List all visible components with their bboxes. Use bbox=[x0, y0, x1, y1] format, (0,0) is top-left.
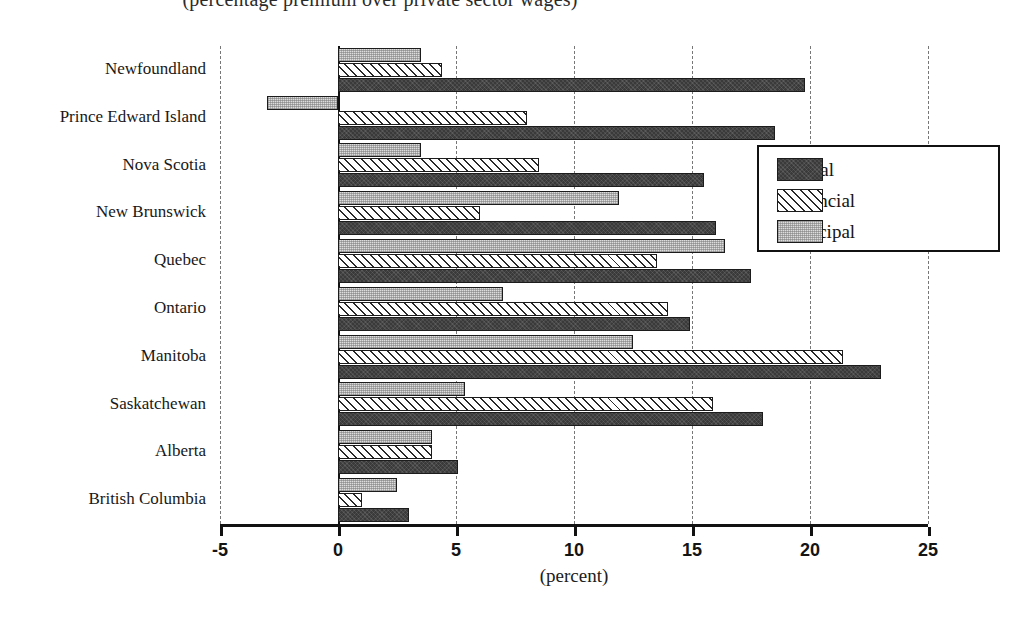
bar-municipal bbox=[338, 48, 421, 62]
bar-federal bbox=[338, 221, 716, 235]
x-tick bbox=[338, 527, 341, 536]
x-tick-label: 15 bbox=[682, 540, 702, 561]
x-tick-label: 25 bbox=[918, 540, 938, 561]
y-tick-label: Saskatchewan bbox=[110, 394, 206, 414]
bar-group bbox=[220, 476, 928, 524]
chart-subtitle: (percentage premium over private sector … bbox=[0, 0, 760, 11]
bar-municipal bbox=[338, 335, 633, 349]
bar-municipal bbox=[338, 478, 397, 492]
dark-solid-swatch bbox=[777, 158, 823, 181]
bar-provincial bbox=[338, 493, 362, 507]
y-tick-label: British Columbia bbox=[88, 489, 206, 509]
legend-item-federal: Federal bbox=[777, 154, 998, 185]
bar-provincial bbox=[338, 111, 527, 125]
y-tick-label: Nova Scotia bbox=[122, 155, 206, 175]
x-tick-label: 5 bbox=[451, 540, 461, 561]
x-tick bbox=[928, 527, 931, 536]
bar-municipal bbox=[338, 287, 503, 301]
bar-group bbox=[220, 94, 928, 142]
bar-group bbox=[220, 428, 928, 476]
x-tick bbox=[810, 527, 813, 536]
x-axis-title: (percent) bbox=[220, 565, 928, 587]
bar-municipal bbox=[338, 143, 421, 157]
x-tick bbox=[574, 527, 577, 536]
bar-group bbox=[220, 333, 928, 381]
x-axis-line: -50510152025 bbox=[220, 524, 928, 527]
bar-provincial bbox=[338, 445, 432, 459]
x-tick bbox=[692, 527, 695, 536]
bar-provincial bbox=[338, 397, 713, 411]
bar-municipal bbox=[338, 382, 465, 396]
bar-federal bbox=[338, 126, 775, 140]
y-tick-label: New Brunswick bbox=[96, 202, 206, 222]
bar-municipal bbox=[267, 96, 338, 110]
bar-provincial bbox=[338, 254, 657, 268]
bar-municipal bbox=[338, 430, 432, 444]
bar-federal bbox=[338, 508, 409, 522]
bar-group bbox=[220, 381, 928, 429]
bar-provincial bbox=[338, 158, 539, 172]
bar-municipal bbox=[338, 239, 725, 253]
bar-municipal bbox=[338, 191, 619, 205]
bar-federal bbox=[338, 365, 881, 379]
chart-legend: FederalProvincialMunicipal bbox=[757, 145, 1000, 252]
bar-provincial bbox=[338, 206, 480, 220]
y-axis-labels: NewfoundlandPrince Edward IslandNova Sco… bbox=[0, 46, 206, 524]
bar-federal bbox=[338, 269, 751, 283]
x-tick-label: -5 bbox=[212, 540, 228, 561]
bar-provincial bbox=[338, 63, 442, 77]
bar-provincial bbox=[338, 302, 668, 316]
y-tick-label: Ontario bbox=[154, 298, 206, 318]
bar-group bbox=[220, 46, 928, 94]
x-tick-label: 10 bbox=[564, 540, 584, 561]
bar-federal bbox=[338, 317, 690, 331]
x-tick bbox=[220, 527, 223, 536]
gridline-25 bbox=[928, 46, 929, 524]
bar-federal bbox=[338, 173, 704, 187]
bar-provincial bbox=[338, 350, 843, 364]
legend-item-provincial: Provincial bbox=[777, 185, 998, 216]
x-tick bbox=[456, 527, 459, 536]
bar-federal bbox=[338, 412, 763, 426]
bar-group bbox=[220, 285, 928, 333]
legend-item-municipal: Municipal bbox=[777, 216, 998, 247]
plot-area bbox=[220, 46, 928, 524]
y-tick-label: Newfoundland bbox=[105, 59, 206, 79]
bar-federal bbox=[338, 460, 458, 474]
stippled-swatch bbox=[777, 220, 823, 243]
y-tick-label: Prince Edward Island bbox=[60, 107, 206, 127]
hatched-swatch bbox=[777, 189, 823, 212]
y-tick-label: Alberta bbox=[155, 441, 206, 461]
bar-federal bbox=[338, 78, 805, 92]
x-tick-label: 20 bbox=[800, 540, 820, 561]
x-tick-label: 0 bbox=[333, 540, 343, 561]
y-tick-label: Manitoba bbox=[141, 346, 206, 366]
y-tick-label: Quebec bbox=[154, 250, 206, 270]
